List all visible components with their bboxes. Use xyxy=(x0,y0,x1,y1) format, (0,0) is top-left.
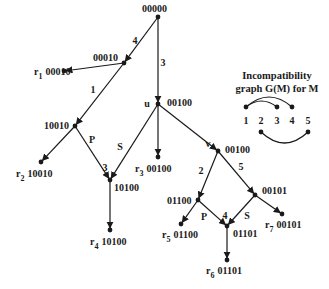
leaf-subscript: 4 xyxy=(94,242,98,251)
leaf-subscript: 1 xyxy=(38,72,42,81)
node-label: 00100 xyxy=(225,144,250,155)
node-dot xyxy=(156,155,161,160)
node-dot xyxy=(156,15,161,20)
incompatibility-graph: Incompatibility graph G(M) for M 12345 xyxy=(236,70,319,143)
node-dot xyxy=(39,160,44,165)
node-label: 00101 xyxy=(262,185,287,196)
igraph-node-label: 5 xyxy=(306,115,311,126)
node-label: 00000 xyxy=(142,3,167,14)
node-dot xyxy=(196,198,201,203)
leaf-label: r410100 xyxy=(90,236,126,251)
edge-label: S xyxy=(244,210,250,221)
leaf-subscript: 2 xyxy=(20,174,24,183)
node-label: 01101 xyxy=(233,228,257,239)
leaf-value: 10100 xyxy=(101,236,126,247)
node-label: 01100 xyxy=(167,195,191,206)
node-dot xyxy=(225,224,230,229)
edge-n00010-r1 xyxy=(66,63,124,71)
leaf-label: r700101 xyxy=(265,219,301,234)
leaf-value: 10010 xyxy=(27,168,52,179)
leaf-label: r100010 xyxy=(34,66,70,81)
node-dot xyxy=(216,149,221,154)
edge-label: 5 xyxy=(239,161,244,172)
leaf-label: r210010 xyxy=(16,168,52,183)
node-dot xyxy=(108,228,113,233)
igraph-node-dot xyxy=(259,130,264,135)
igraph-node-dot xyxy=(244,105,249,110)
leaf-value: 00100 xyxy=(146,163,171,174)
leaf-label: r300100 xyxy=(135,163,171,178)
tree-nodes xyxy=(39,15,285,263)
edge-label: P xyxy=(89,134,95,145)
node-label: 10010 xyxy=(44,120,69,131)
edge-n10010-r2 xyxy=(42,126,75,161)
tree-edges xyxy=(42,17,280,258)
node-dot xyxy=(280,212,285,217)
leaf-value: 00101 xyxy=(276,219,301,230)
leaf-label: r601101 xyxy=(206,265,242,280)
edge-label: 3 xyxy=(161,57,166,68)
igraph-node-dot xyxy=(306,130,311,135)
edge-label: P xyxy=(201,211,207,222)
leaf-value: 01101 xyxy=(217,265,241,276)
node-label: 10100 xyxy=(114,182,139,193)
node-label: 00100 xyxy=(167,97,192,108)
edge-label: 2 xyxy=(199,165,204,176)
node-dot xyxy=(253,193,258,198)
leaf-value: 00010 xyxy=(45,66,70,77)
tree-diagram: 431SP25PS0000000010r1000100010010010r210… xyxy=(0,0,329,289)
igraph-node-label: 3 xyxy=(275,115,280,126)
node-name-u: u xyxy=(144,98,150,109)
edge-v-n00101 xyxy=(218,151,254,193)
edge-n00010-n10010 xyxy=(76,63,124,124)
node-dot xyxy=(179,222,184,227)
igraph-node-label: 2 xyxy=(259,115,264,126)
leaf-subscript: 5 xyxy=(166,235,170,244)
edge-n00101-r7 xyxy=(255,195,280,213)
edge-label: 4 xyxy=(133,35,138,46)
igraph-node-label: 4 xyxy=(290,115,295,126)
node-dot xyxy=(225,258,230,263)
leaf-subscript: 6 xyxy=(210,271,214,280)
edge-label: S xyxy=(117,141,123,152)
merge-edge-label: 4 xyxy=(223,210,228,221)
tree-labels: 431SP25PS0000000010r1000100010010010r210… xyxy=(16,3,301,280)
node-dot xyxy=(73,124,78,129)
leaf-label: r501100 xyxy=(162,229,198,244)
merge-edge-label: 3 xyxy=(103,162,108,173)
edge-label: 1 xyxy=(91,84,96,95)
node-dot xyxy=(122,61,127,66)
leaf-subscript: 7 xyxy=(269,225,273,234)
leaf-value: 01100 xyxy=(173,229,197,240)
igraph-node-dot xyxy=(275,105,280,110)
igraph-title-line2: graph G(M) for M xyxy=(236,83,319,95)
node-dot xyxy=(108,178,113,183)
igraph-edge-2-5 xyxy=(261,132,308,143)
node-dot xyxy=(156,102,161,107)
diagram-canvas: 431SP25PS0000000010r1000100010010010r210… xyxy=(0,0,329,289)
edge-n00101-n01101 xyxy=(228,195,255,225)
leaf-subscript: 3 xyxy=(139,169,143,178)
node-name-v: v xyxy=(206,138,211,149)
igraph-title-line1: Incompatibility xyxy=(242,70,312,81)
igraph-node-label: 1 xyxy=(244,115,249,126)
igraph-node-dot xyxy=(290,105,295,110)
node-label: 00010 xyxy=(93,52,118,63)
edge-n00000-n00010 xyxy=(125,17,158,61)
